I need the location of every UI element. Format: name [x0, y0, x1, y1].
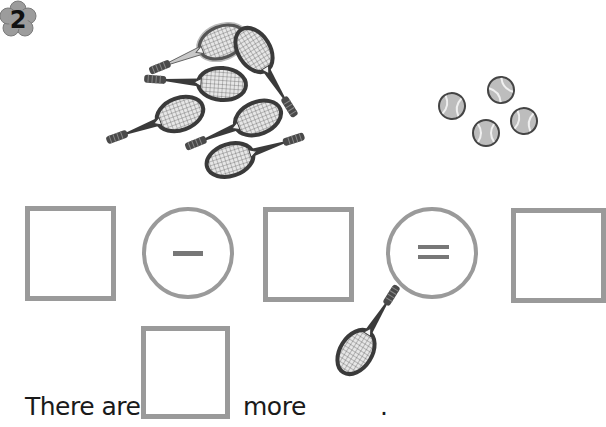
sentence-suffix: .: [380, 392, 387, 421]
tennis-racket-icon: [330, 277, 411, 380]
